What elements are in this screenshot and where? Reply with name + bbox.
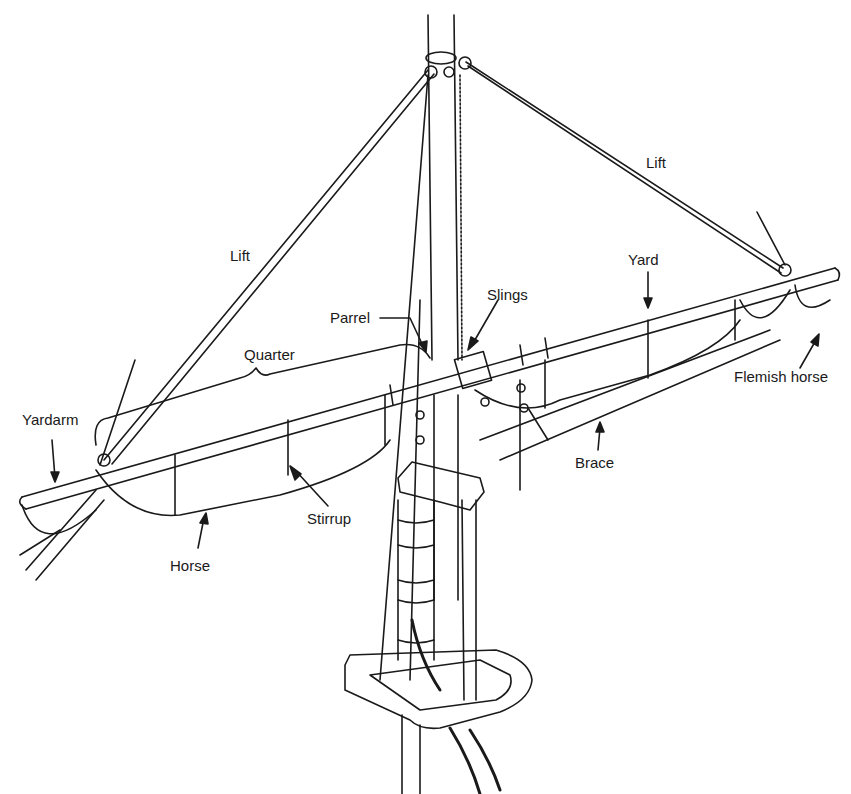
horse-ropes	[22, 285, 830, 534]
label-quarter: Quarter	[244, 347, 295, 362]
label-yard: Yard	[628, 252, 659, 267]
lift-ropes	[100, 62, 785, 465]
label-flemish-horse: Flemish horse	[734, 369, 828, 384]
label-parrel: Parrel	[330, 310, 370, 325]
label-slings: Slings	[487, 287, 528, 302]
label-yardarm: Yardarm	[22, 412, 78, 427]
label-arrows	[51, 272, 819, 548]
yard-spar	[20, 264, 840, 509]
mast-rigging-drawing	[0, 0, 851, 794]
label-lift-left: Lift	[230, 248, 250, 263]
label-stirrup: Stirrup	[307, 511, 351, 526]
label-lift-right: Lift	[646, 155, 666, 170]
label-horse: Horse	[170, 558, 210, 573]
label-brace: Brace	[575, 455, 614, 470]
